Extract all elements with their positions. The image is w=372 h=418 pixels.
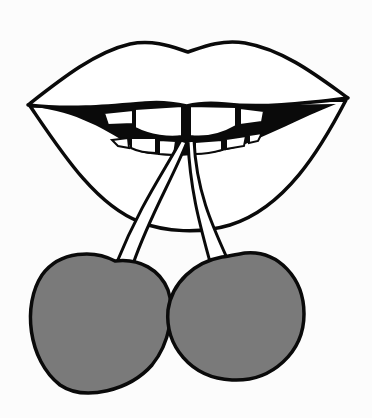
upper-lip <box>28 42 348 107</box>
lips-cherries-illustration <box>0 0 372 418</box>
right-cherry <box>168 253 304 380</box>
left-cherry <box>30 254 171 393</box>
illustration-canvas: Lips biting cherry stems <box>0 0 372 418</box>
